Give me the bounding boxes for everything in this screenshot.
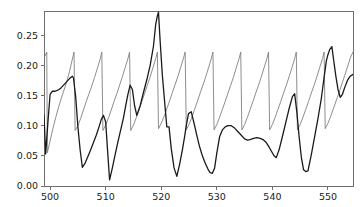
plot-svg: 500510520530540550 0.000.050.100.150.200… xyxy=(0,0,363,207)
y-tick-label: 0.05 xyxy=(17,150,38,161)
y-tick-label: 0.20 xyxy=(17,60,38,71)
x-tick-label: 530 xyxy=(208,191,226,202)
y-tick-label: 0.15 xyxy=(17,90,38,101)
chart-figure: 500510520530540550 0.000.050.100.150.200… xyxy=(0,0,363,207)
y-tick-label: 0.10 xyxy=(17,120,38,131)
x-tick-label: 500 xyxy=(41,191,59,202)
x-tick-label: 550 xyxy=(319,191,337,202)
y-tick-label: 0.25 xyxy=(17,30,38,41)
x-tick-label: 510 xyxy=(97,191,115,202)
x-tick-label: 520 xyxy=(152,191,170,202)
x-tick-label: 540 xyxy=(263,191,281,202)
y-tick-label: 0.00 xyxy=(17,180,38,191)
